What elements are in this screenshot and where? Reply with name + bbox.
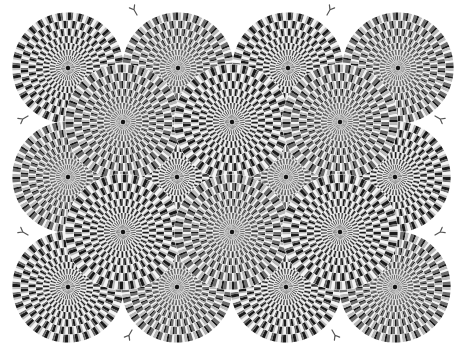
disk-center-dot [393, 285, 397, 289]
illusion-disk [282, 174, 398, 290]
illusion-disk [174, 174, 290, 290]
disk-center-dot [230, 120, 234, 124]
disk-center-dot [393, 175, 397, 179]
illusion-disk [282, 64, 398, 180]
illusion-disk [174, 64, 290, 180]
disk-center-dot [175, 285, 179, 289]
disk-center-dot [121, 120, 125, 124]
disk-center-dot [338, 120, 342, 124]
illusion-disk [65, 174, 181, 290]
disk-center-dot [66, 285, 70, 289]
disk-center-dot [121, 230, 125, 234]
disk-center-dot [230, 230, 234, 234]
disk-center-dot [66, 175, 70, 179]
disk-center-dot [284, 175, 288, 179]
optical-illusion-image [0, 0, 463, 354]
disk-center-dot [396, 66, 400, 70]
disk-center-dot [284, 285, 288, 289]
disk-center-dot [338, 230, 342, 234]
disk-center-dot [175, 175, 179, 179]
disk-center-dot [286, 66, 290, 70]
illusion-disk [65, 64, 181, 180]
rotating-snakes-illusion [0, 0, 463, 354]
disk-center-dot [66, 66, 70, 70]
disk-center-dot [176, 66, 180, 70]
